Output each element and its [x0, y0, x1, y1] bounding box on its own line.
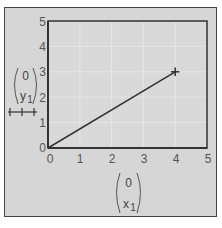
- y-label-placeholder: 0: [22, 69, 29, 83]
- y-label-name: y: [20, 89, 26, 103]
- y-tick-3: 3: [39, 65, 46, 79]
- y-axis-label[interactable]: 0 y 1: [15, 68, 37, 105]
- insertion-ruler-icon: [8, 108, 37, 116]
- x-tick-4: 4: [173, 152, 180, 166]
- x-axis-label[interactable]: 0 x 1: [117, 173, 141, 213]
- y-tick-1: 1: [39, 116, 46, 130]
- x-tick-0: 0: [47, 152, 54, 166]
- y-tick-2: 2: [39, 91, 46, 105]
- x-tick-1: 1: [77, 152, 84, 166]
- x-label-placeholder: 0: [125, 176, 132, 190]
- x-tick-3: 3: [141, 152, 148, 166]
- y-tick-4: 4: [39, 40, 46, 54]
- x-tick-5: 5: [205, 152, 212, 166]
- chart-svg: 0 1 2 3 4 5 0 1 2 3 4 5 0 y 1 0 x 1: [0, 0, 222, 228]
- x-label-name: x: [123, 197, 129, 211]
- plot-area[interactable]: [48, 21, 207, 148]
- y-tick-0: 0: [39, 141, 46, 155]
- y-tick-5: 5: [39, 15, 46, 29]
- x-label-subscript: 1: [130, 202, 136, 213]
- x-tick-2: 2: [109, 152, 116, 166]
- y-label-subscript: 1: [27, 94, 33, 105]
